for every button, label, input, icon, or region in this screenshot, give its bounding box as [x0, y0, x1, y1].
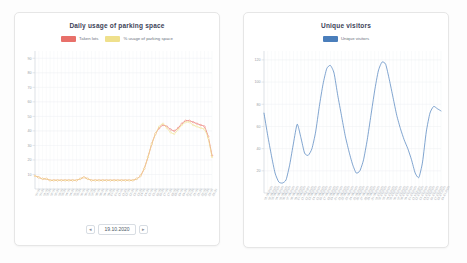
legend-label-unique-visitors: Unique visitors — [341, 36, 369, 41]
dashboard-page: Daily usage of parking space Taken lots … — [0, 0, 467, 263]
legend-item-unique-visitors[interactable]: Unique visitors — [323, 36, 369, 42]
svg-text:70: 70 — [28, 86, 32, 90]
parking-chart-title: Daily usage of parking space — [15, 22, 219, 29]
svg-text:20: 20 — [257, 169, 261, 173]
visitors-chart-legend: Unique visitors — [244, 34, 448, 43]
visitors-chart-svg: 20406080100120 — [244, 47, 448, 199]
visitors-x-axis-labels: 01.09.202002.09.202003.09.202004.09.2020… — [244, 199, 442, 225]
svg-text:80: 80 — [257, 103, 261, 107]
visitors-plot-area: 20406080100120 — [244, 47, 448, 199]
pager-current-date[interactable]: 19.10.2020 — [98, 224, 135, 235]
svg-text:10: 10 — [28, 173, 32, 177]
svg-text:60: 60 — [28, 100, 32, 104]
parking-x-axis-labels: 00:0000:3001:0001:3002:0002:3003:0003:30… — [15, 195, 213, 221]
svg-text:40: 40 — [28, 129, 32, 133]
visitors-chart-title: Unique visitors — [244, 22, 448, 29]
svg-text:100: 100 — [255, 80, 261, 84]
parking-usage-card: Daily usage of parking space Taken lots … — [14, 12, 220, 246]
legend-swatch-usage-percent — [105, 36, 120, 42]
svg-text:120: 120 — [255, 58, 261, 62]
legend-swatch-taken-lots — [61, 36, 76, 42]
legend-item-usage-percent[interactable]: % usage of parking space — [105, 36, 172, 42]
svg-text:80: 80 — [28, 71, 32, 75]
parking-plot-area: 102030405060708090 — [15, 47, 219, 195]
svg-text:40: 40 — [257, 147, 261, 151]
svg-text:90: 90 — [28, 57, 32, 61]
unique-visitors-card: Unique visitors Unique visitors 20406080… — [243, 12, 449, 248]
svg-text:20: 20 — [28, 158, 32, 162]
legend-swatch-unique-visitors — [323, 36, 338, 42]
legend-label-usage-percent: % usage of parking space — [123, 36, 172, 41]
parking-date-pager: ◂ 19.10.2020 ▸ — [15, 224, 219, 235]
svg-text:60: 60 — [257, 125, 261, 129]
legend-item-taken-lots[interactable]: Taken lots — [61, 36, 98, 42]
pager-prev-button[interactable]: ◂ — [86, 225, 95, 234]
parking-chart-legend: Taken lots % usage of parking space — [15, 34, 219, 43]
svg-text:50: 50 — [28, 115, 32, 119]
pager-next-button[interactable]: ▸ — [139, 225, 148, 234]
parking-chart-svg: 102030405060708090 — [15, 47, 219, 195]
svg-text:30: 30 — [28, 144, 32, 148]
legend-label-taken-lots: Taken lots — [79, 36, 98, 41]
